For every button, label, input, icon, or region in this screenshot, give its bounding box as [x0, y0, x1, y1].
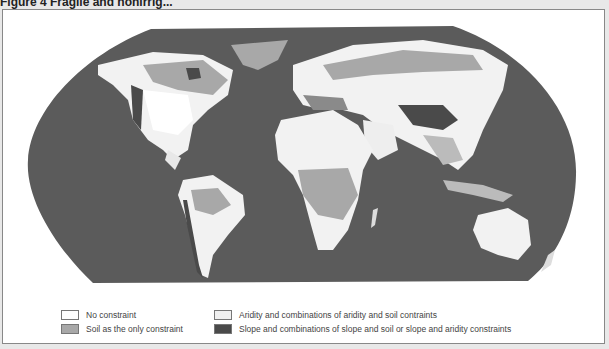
legend-item-no-constraint: No constraint [61, 310, 136, 320]
legend-label: No constraint [86, 310, 136, 320]
legend-swatch-light-gray [61, 324, 79, 334]
legend-label: Slope and combinations of slope and soil… [239, 324, 511, 334]
figure-frame: No constraint Soil as the only constrain… [2, 9, 605, 344]
legend-swatch-off-white [214, 310, 232, 320]
legend-swatch-dark-gray [214, 324, 232, 334]
legend-item-soil: Soil as the only constraint [61, 324, 183, 334]
legend-item-aridity: Aridity and combinations of aridity and … [214, 310, 437, 320]
world-map [3, 10, 604, 343]
legend-label: Soil as the only constraint [86, 324, 183, 334]
legend-item-slope: Slope and combinations of slope and soil… [214, 324, 511, 334]
legend-label: Aridity and combinations of aridity and … [239, 310, 437, 320]
figure-title: Figure 4 Fragile and nonirrig... [0, 0, 173, 9]
legend-swatch-white [61, 310, 79, 320]
